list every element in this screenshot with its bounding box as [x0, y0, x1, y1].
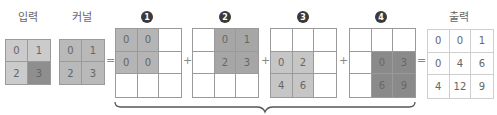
equals-sign: =: [106, 54, 115, 67]
step-cell: [236, 74, 258, 97]
step-matrix-1: 0 0 0 0: [115, 28, 182, 98]
step-cell: [116, 74, 138, 97]
step-cell: [393, 29, 415, 52]
step-cell: 0: [271, 52, 293, 75]
sum-brace: [113, 100, 417, 114]
step-matrix-2: 0 1 2 3: [192, 28, 259, 98]
input-matrix: 0 1 2 3: [5, 39, 51, 85]
output-cell: 9: [471, 75, 493, 98]
step-cell: [193, 52, 215, 75]
step-cell: [314, 74, 336, 97]
step-cell: 9: [393, 74, 415, 97]
step-cell: 1: [236, 29, 258, 52]
step-cell: 2: [215, 52, 237, 75]
step-cell: [350, 52, 372, 75]
step-cell: [159, 29, 181, 52]
output-cell: 4: [450, 53, 472, 76]
input-cell: 2: [6, 62, 28, 84]
step-cell: [314, 52, 336, 75]
output-cell: 0: [428, 30, 450, 53]
equals-sign: =: [417, 54, 426, 67]
step-cell: 0: [215, 29, 237, 52]
step-cell: [271, 29, 293, 52]
input-label: 입력: [3, 8, 53, 24]
kernel-cell: 3: [82, 62, 104, 84]
step-badge-3: 3: [297, 11, 309, 23]
step-cell: 6: [372, 74, 394, 97]
output-cell: 0: [428, 53, 450, 76]
step-cell: [193, 29, 215, 52]
output-label: 출력: [434, 8, 484, 24]
step-cell: 0: [116, 29, 138, 52]
output-cell: 12: [450, 75, 472, 98]
step-cell: [159, 52, 181, 75]
step-cell: [215, 74, 237, 97]
input-cell: 0: [6, 40, 28, 62]
input-cell: 1: [28, 40, 50, 62]
output-cell: 4: [428, 75, 450, 98]
kernel-label: 커널: [57, 8, 107, 24]
step-cell: 0: [372, 52, 394, 75]
kernel-cell: 2: [60, 62, 82, 84]
step-cell: 3: [236, 52, 258, 75]
output-cell: 6: [471, 53, 493, 76]
input-cell-highlighted: 3: [28, 62, 50, 84]
step-badge-4: 4: [375, 11, 387, 23]
step-cell: [293, 29, 315, 52]
step-cell: 4: [271, 74, 293, 97]
output-matrix: 0 0 1 0 4 6 4 12 9: [427, 29, 494, 99]
step-matrix-4: 0 3 6 9: [349, 28, 416, 98]
plus-sign: +: [261, 54, 270, 67]
step-badge-1: 1: [141, 11, 153, 23]
output-cell: 0: [450, 30, 472, 53]
plus-sign: +: [183, 54, 192, 67]
step-cell: [372, 29, 394, 52]
step-cell: [159, 74, 181, 97]
kernel-matrix: 0 1 2 3: [59, 39, 105, 85]
kernel-cell: 1: [82, 40, 104, 62]
step-cell: 2: [293, 52, 315, 75]
step-cell: 0: [116, 52, 138, 75]
step-cell: [350, 74, 372, 97]
step-cell: [350, 29, 372, 52]
step-cell: 6: [293, 74, 315, 97]
step-cell: [193, 74, 215, 97]
step-badge-2: 2: [219, 11, 231, 23]
step-cell: 0: [138, 52, 160, 75]
step-cell: 0: [138, 29, 160, 52]
output-cell: 1: [471, 30, 493, 53]
plus-sign: +: [339, 54, 348, 67]
step-cell: [314, 29, 336, 52]
kernel-cell: 0: [60, 40, 82, 62]
step-cell: 3: [393, 52, 415, 75]
step-cell: [138, 74, 160, 97]
step-matrix-3: 0 2 4 6: [270, 28, 337, 98]
